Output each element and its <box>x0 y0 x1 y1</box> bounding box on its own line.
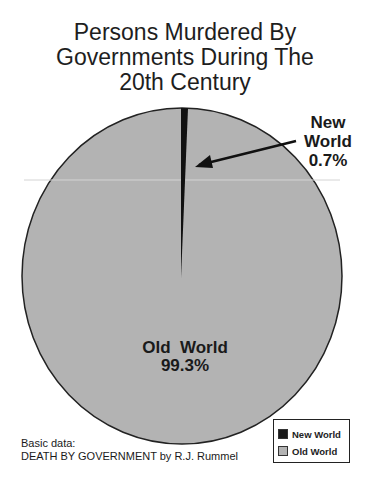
source-line-2: DEATH BY GOVERNMENT by R.J. Rummel <box>21 450 238 463</box>
legend: New World Old World <box>273 419 350 463</box>
legend-label-new-world: New World <box>292 429 341 440</box>
legend-label-old-world: Old World <box>292 446 337 457</box>
legend-item-new-world: New World <box>278 428 341 440</box>
old-world-label: Old World 99.3% <box>120 339 250 375</box>
old-world-value: 99.3% <box>120 357 250 375</box>
legend-swatch-old-world <box>278 446 288 456</box>
source-note: Basic data: DEATH BY GOVERNMENT by R.J. … <box>21 437 238 463</box>
legend-swatch-new-world <box>278 429 288 439</box>
new-world-label-line-2: World <box>298 132 358 151</box>
new-world-callout: New World 0.7% <box>298 113 358 170</box>
new-world-value: 0.7% <box>298 151 358 170</box>
legend-item-old-world: Old World <box>278 445 337 457</box>
old-world-name: Old World <box>120 339 250 357</box>
source-line-1: Basic data: <box>21 437 238 450</box>
pie-chart <box>0 0 370 490</box>
new-world-label-line-1: New <box>298 113 358 132</box>
